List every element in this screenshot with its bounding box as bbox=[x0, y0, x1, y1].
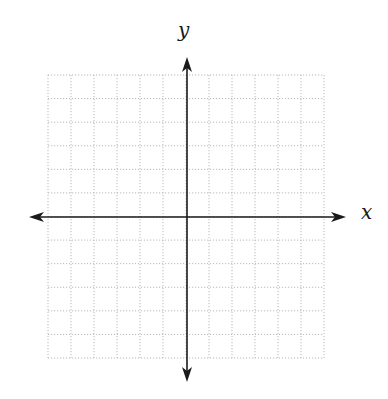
axes bbox=[29, 57, 346, 382]
coordinate-grid bbox=[0, 0, 388, 399]
y-axis-label: y bbox=[178, 20, 189, 40]
x-axis-label: x bbox=[361, 202, 372, 222]
